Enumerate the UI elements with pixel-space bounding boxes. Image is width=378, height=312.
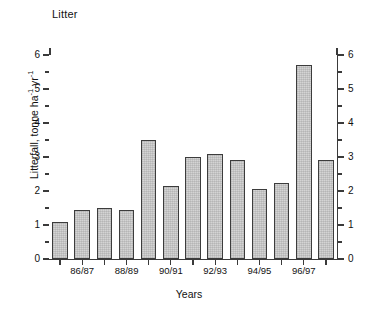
y-tick-minor — [45, 105, 49, 106]
y-tick-major — [338, 54, 344, 55]
bar — [74, 210, 90, 259]
x-tick — [59, 260, 60, 265]
y-tick-label: 0 — [22, 254, 40, 264]
y-tick-major — [43, 190, 49, 191]
bar — [185, 157, 201, 259]
y-tick-minor — [45, 173, 49, 174]
chart-title: Litter — [52, 8, 78, 20]
y-tick-minor — [338, 173, 342, 174]
y-tick-label: 1 — [348, 220, 366, 230]
bar — [163, 186, 179, 259]
y-tick-major — [338, 88, 344, 89]
x-tick-label: 86/87 — [59, 266, 105, 276]
bar — [318, 160, 334, 259]
y-tick-minor — [45, 139, 49, 140]
y-tick-minor — [45, 241, 49, 242]
y-tick-label: 5 — [348, 84, 366, 94]
x-tick-label: 90/91 — [148, 266, 194, 276]
bar — [141, 140, 157, 259]
y-axis-title: Litterfall, tonne ha-1 yr-1 — [26, 20, 40, 230]
y-tick-major — [338, 156, 344, 157]
x-tick-label: 92/93 — [192, 266, 238, 276]
x-tick — [82, 260, 83, 265]
y-tick-major — [43, 88, 49, 89]
y-tick-major — [43, 54, 49, 55]
y-tick-label: 0 — [348, 254, 366, 264]
bar — [230, 160, 246, 259]
x-tick — [281, 260, 282, 265]
x-tick — [259, 260, 260, 265]
x-tick — [126, 260, 127, 265]
bar — [252, 189, 268, 259]
y-tick-major — [338, 224, 344, 225]
y-tick-major — [338, 258, 344, 259]
x-tick — [325, 260, 326, 265]
x-tick-label: 96/97 — [281, 266, 327, 276]
x-tick — [237, 260, 238, 265]
x-tick — [170, 260, 171, 265]
y-tick-label: 6 — [348, 50, 366, 60]
x-axis-title: Years — [0, 288, 378, 300]
x-tick-label: 88/89 — [104, 266, 150, 276]
y-tick-minor — [338, 105, 342, 106]
y-tick-major — [43, 224, 49, 225]
y-tick-major — [338, 122, 344, 123]
bar — [119, 210, 135, 259]
bar — [97, 208, 113, 259]
y-tick-minor — [45, 207, 49, 208]
y-tick-label: 3 — [348, 152, 366, 162]
y-tick-minor — [338, 139, 342, 140]
x-tick — [215, 260, 216, 265]
x-tick — [148, 260, 149, 265]
y-tick-major — [43, 258, 49, 259]
y-tick-major — [43, 122, 49, 123]
y-tick-major — [338, 190, 344, 191]
y-tick-minor — [338, 241, 342, 242]
x-tick — [104, 260, 105, 265]
y-tick-major — [43, 156, 49, 157]
x-tick — [303, 260, 304, 265]
bar — [296, 65, 312, 259]
x-tick — [192, 260, 193, 265]
y-tick-minor — [338, 207, 342, 208]
bar — [52, 222, 68, 259]
y-tick-minor — [45, 71, 49, 72]
bar — [274, 183, 290, 260]
x-tick-label: 94/95 — [236, 266, 282, 276]
chart-figure: Litter 0011223344556686/8788/8990/9192/9… — [0, 0, 378, 312]
y-tick-minor — [338, 71, 342, 72]
y-tick-label: 4 — [348, 118, 366, 128]
bar — [207, 154, 223, 259]
y-tick-label: 2 — [348, 186, 366, 196]
